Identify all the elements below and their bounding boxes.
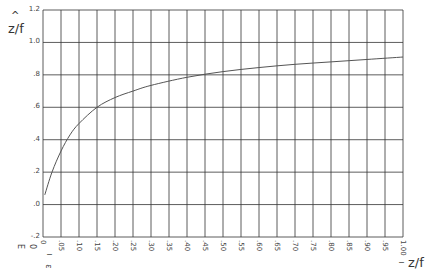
stray-label-e: E (16, 244, 25, 249)
stray-tick-mark: ı (45, 253, 54, 255)
x-tick-label: .80 (327, 240, 335, 251)
y-tick-label: .8 (20, 70, 40, 78)
chart-plot-area (0, 0, 431, 279)
x-tick-label: .15 (93, 240, 101, 251)
y-tick-label: 1.2 (20, 5, 40, 13)
x-axis-title: z/f (408, 255, 424, 270)
x-tick-label: .50 (219, 240, 227, 251)
x-tick-label: .95 (381, 240, 389, 251)
y-tick-label: .0 (20, 200, 40, 208)
x-tick-label: .75 (309, 240, 317, 251)
stray-tick-mark-right: ı (397, 261, 406, 263)
x-tick-label: .70 (291, 240, 299, 251)
x-tick-label: .35 (165, 240, 173, 251)
x-tick-label: .65 (273, 240, 281, 251)
x-tick-label: .10 (75, 240, 83, 251)
y-tick-label: 1.0 (20, 37, 40, 45)
x-tick-label: .45 (201, 240, 209, 251)
x-tick-label: .85 (345, 240, 353, 251)
y-axis-title-hat: ^ (11, 10, 19, 21)
x-tick-label: .30 (147, 240, 155, 251)
stray-label-zero: 0 (28, 244, 37, 249)
grid-lines (43, 10, 403, 237)
y-tick-label: .2 (20, 167, 40, 175)
stray-label-eps: ε (44, 264, 53, 268)
y-tick-label: -.2 (20, 232, 40, 240)
y-tick-label: .6 (20, 102, 40, 110)
x-tick-label: 1.00 (399, 240, 407, 256)
x-tick-label: .20 (111, 240, 119, 251)
x-tick-label: .55 (237, 240, 245, 251)
y-tick-label: .4 (20, 135, 40, 143)
x-tick-label: 0 (39, 240, 47, 244)
x-tick-label: .40 (183, 240, 191, 251)
x-tick-label: .90 (363, 240, 371, 251)
y-axis-title: z/f (8, 21, 24, 36)
x-tick-label: .25 (129, 240, 137, 251)
x-tick-label: .60 (255, 240, 263, 251)
x-tick-label: .05 (57, 240, 65, 251)
